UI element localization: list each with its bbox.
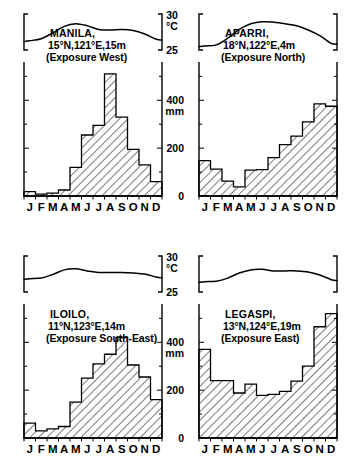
precipitation-bars	[24, 338, 162, 439]
month-label-J-5: J	[84, 201, 90, 213]
panel-bottom-right: JFMAMJJASONDLEGASPI,13°N,124°E,19m(Expos…	[199, 256, 337, 455]
month-label-D-11: D	[327, 443, 335, 455]
month-label-M-2: M	[223, 443, 233, 455]
temp-axis-bracket-right	[158, 256, 162, 292]
precip-axis-label-200: 200	[166, 142, 184, 154]
month-label-M-2: M	[48, 443, 58, 455]
month-axis-labels-bottom-right: JFMAMJJASOND	[202, 443, 336, 455]
temp-axis-unit-label: °C	[166, 20, 178, 32]
station-exposure: (Exposure West)	[46, 51, 127, 63]
month-label-A-3: A	[60, 201, 68, 213]
precip-axis-label-0: 0	[178, 190, 184, 202]
month-label-A-3: A	[235, 201, 243, 213]
month-label-A-7: A	[281, 201, 289, 213]
climate-diagram-svg: JFMAMJJASONDMANILA,15°N,121°E,15m(Exposu…	[0, 0, 353, 469]
temp-axis-label-25: 25	[166, 286, 178, 298]
temperature-curve	[24, 269, 162, 280]
temperature-curve	[199, 269, 337, 282]
station-name: APARRI,	[225, 27, 269, 39]
month-label-M-4: M	[246, 201, 256, 213]
panel-bottom-left: JFMAMJJASONDILOILO,11°N,123°E,14m(Exposu…	[24, 256, 162, 455]
station-caption-top-right: APARRI,18°N,122°E,4m(Exposure North)	[221, 27, 305, 63]
station-caption-bottom-right: LEGASPI,13°N,124°E,19m(Exposure East)	[221, 308, 301, 344]
climate-diagram-figure: JFMAMJJASONDMANILA,15°N,121°E,15m(Exposu…	[0, 0, 353, 469]
month-label-J-6: J	[96, 443, 102, 455]
month-label-M-2: M	[223, 201, 233, 213]
month-label-F-1: F	[213, 443, 220, 455]
month-label-F-1: F	[38, 201, 45, 213]
month-label-M-4: M	[71, 201, 81, 213]
station-exposure: (Exposure East)	[221, 332, 299, 344]
month-label-J-6: J	[96, 201, 102, 213]
month-label-N-10: N	[316, 201, 324, 213]
month-label-J-0: J	[27, 443, 33, 455]
precipitation-bars	[199, 104, 337, 196]
month-label-S-8: S	[118, 443, 126, 455]
temp-axis-bracket-left	[24, 14, 28, 50]
month-label-O-9: O	[129, 443, 138, 455]
month-label-M-4: M	[71, 443, 81, 455]
centre-axis-labels: 30°C25400mm2000	[165, 9, 184, 202]
precipitation-bars	[24, 74, 162, 196]
month-label-S-8: S	[293, 443, 301, 455]
station-coordinates: 15°N,121°E,15m	[48, 39, 126, 51]
station-exposure: (Exposure South-East)	[46, 332, 157, 344]
precipitation-bars-group-top-right	[199, 62, 337, 200]
panel-top-right: JFMAMJJASONDAPARRI,18°N,122°E,4m(Exposur…	[199, 14, 337, 213]
month-label-D-11: D	[327, 201, 335, 213]
month-label-N-10: N	[141, 201, 149, 213]
station-caption-top-left: MANILA,15°N,121°E,15m(Exposure West)	[46, 27, 127, 63]
station-coordinates: 18°N,122°E,4m	[223, 39, 295, 51]
station-name: MANILA,	[50, 27, 95, 39]
month-label-S-8: S	[293, 201, 301, 213]
station-exposure: (Exposure North)	[221, 51, 305, 63]
station-coordinates: 13°N,124°E,19m	[223, 320, 301, 332]
month-label-D-11: D	[152, 201, 160, 213]
month-label-O-9: O	[304, 443, 313, 455]
panel-top-left: JFMAMJJASONDMANILA,15°N,121°E,15m(Exposu…	[24, 14, 162, 213]
temp-axis-label-25: 25	[166, 44, 178, 56]
temperature-curve-group-bottom-right	[199, 256, 337, 292]
precipitation-bars-group-top-left	[24, 62, 162, 200]
month-label-F-1: F	[213, 201, 220, 213]
month-label-M-4: M	[246, 443, 256, 455]
month-label-S-8: S	[118, 201, 126, 213]
month-label-A-3: A	[60, 443, 68, 455]
precip-axis-label-200: 200	[166, 384, 184, 396]
month-label-O-9: O	[304, 201, 313, 213]
month-label-J-5: J	[259, 201, 265, 213]
temp-axis-bracket-right	[158, 14, 162, 50]
month-label-J-5: J	[84, 443, 90, 455]
station-name: ILOILO,	[50, 308, 89, 320]
month-label-A-7: A	[106, 443, 114, 455]
month-label-D-11: D	[152, 443, 160, 455]
temp-axis-bracket-left	[199, 14, 203, 50]
month-label-J-6: J	[271, 443, 277, 455]
station-coordinates: 11°N,123°E,14m	[48, 320, 125, 332]
month-label-A-7: A	[106, 201, 114, 213]
precip-axis-label-0: 0	[178, 432, 184, 444]
month-label-J-0: J	[202, 443, 208, 455]
temp-axis-unit-label: °C	[166, 262, 178, 274]
station-name: LEGASPI,	[225, 308, 276, 320]
month-label-F-1: F	[38, 443, 45, 455]
precip-axis-unit-label: mm	[165, 347, 184, 359]
month-label-A-7: A	[281, 443, 289, 455]
temp-axis-bracket-right	[333, 256, 337, 292]
month-axis-labels-top-right: JFMAMJJASOND	[202, 201, 336, 213]
month-axis-labels-top-left: JFMAMJJASOND	[27, 201, 161, 213]
temp-axis-bracket-left	[24, 256, 28, 292]
temperature-curve-group-bottom-left	[24, 256, 162, 292]
month-label-J-0: J	[27, 201, 33, 213]
month-label-J-5: J	[259, 443, 265, 455]
station-caption-bottom-left: ILOILO,11°N,123°E,14m(Exposure South-Eas…	[46, 308, 157, 344]
month-label-J-0: J	[202, 201, 208, 213]
centre-axis-labels: 30°C25400mm2000	[165, 251, 184, 444]
month-label-A-3: A	[235, 443, 243, 455]
month-label-M-2: M	[48, 201, 58, 213]
month-label-N-10: N	[141, 443, 149, 455]
temp-axis-bracket-left	[199, 256, 203, 292]
month-label-N-10: N	[316, 443, 324, 455]
month-label-O-9: O	[129, 201, 138, 213]
precip-axis-unit-label: mm	[165, 105, 184, 117]
